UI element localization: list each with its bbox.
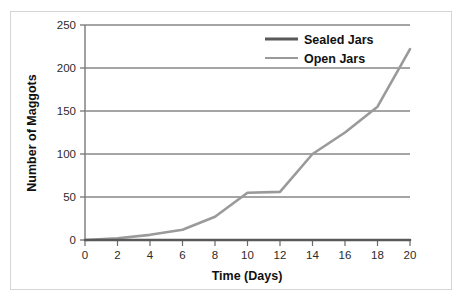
x-tick-label-8: 8 — [212, 249, 218, 261]
chart-figure: 250 200 150 100 50 0 Number of Maggots 0 — [0, 0, 464, 305]
x-tick-label-4: 4 — [147, 249, 154, 261]
x-axis-title: Time (Days) — [212, 269, 283, 283]
legend: Sealed Jars Open Jars — [265, 33, 374, 66]
x-tick-label-2: 2 — [114, 249, 120, 261]
legend-label-open-jars: Open Jars — [304, 52, 365, 66]
legend-label-sealed-jars: Sealed Jars — [304, 33, 374, 47]
y-tick-label-0: 0 — [70, 234, 76, 246]
y-tick-label-100: 100 — [57, 148, 76, 160]
gridlines — [85, 25, 410, 197]
x-tick-label-20: 20 — [404, 249, 417, 261]
x-tick-label-16: 16 — [339, 249, 352, 261]
x-tick-label-6: 6 — [179, 249, 185, 261]
x-tick-label-10: 10 — [241, 249, 254, 261]
y-tick-label-200: 200 — [57, 62, 76, 74]
y-tick-label-150: 150 — [57, 105, 76, 117]
x-axis-tick-labels: 0 2 4 6 8 10 12 14 16 18 20 — [82, 249, 417, 261]
y-axis-title: Number of Maggots — [25, 74, 39, 191]
line-chart: 250 200 150 100 50 0 Number of Maggots 0 — [0, 0, 464, 305]
x-tick-label-0: 0 — [82, 249, 88, 261]
y-axis-tick-labels: 250 200 150 100 50 0 — [57, 19, 76, 246]
x-tick-label-14: 14 — [306, 249, 319, 261]
y-tick-label-50: 50 — [63, 191, 76, 203]
series-line-open-jars — [85, 49, 410, 240]
x-tick-label-12: 12 — [274, 249, 287, 261]
y-tick-label-250: 250 — [57, 19, 76, 31]
x-tick-label-18: 18 — [371, 249, 384, 261]
